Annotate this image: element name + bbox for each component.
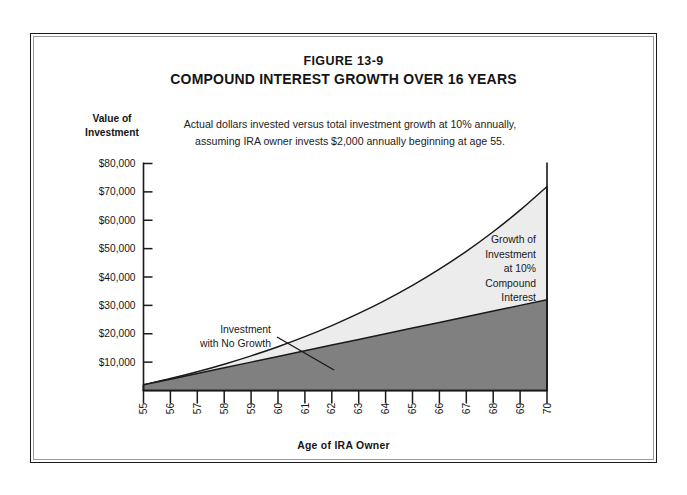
y-tick-label: $40,000 [99,272,136,283]
x-tick-label: 66 [434,403,445,415]
x-tick-label: 69 [515,403,526,415]
y-tick-label: $10,000 [99,357,136,368]
annotation-growth-line: Investment [485,249,536,260]
x-tick-label: 57 [192,403,203,415]
annotation-no-growth-line: Investment [220,324,271,335]
x-tick-label: 59 [246,403,257,415]
x-tick-label: 65 [407,403,418,415]
y-tick-label: $30,000 [99,300,136,311]
x-tick-label: 67 [461,403,472,415]
x-tick-label: 68 [488,403,499,415]
chart-area: $80,000$70,000$60,000$50,000$40,000$30,0… [0,0,687,495]
annotation-growth-line: Compound [485,278,536,289]
y-tick-label: $80,000 [99,158,136,169]
annotation-growth-line: Growth of [491,234,536,245]
x-tick-label: 61 [300,403,311,415]
x-tick-label: 58 [219,403,230,415]
x-tick-label: 62 [326,403,337,415]
y-tick-label: $20,000 [99,328,136,339]
annotation-growth-line: Interest [501,292,536,303]
x-tick-label: 60 [273,403,284,415]
annotation-no-growth-line: with No Growth [199,338,271,349]
x-tick-label: 56 [165,403,176,415]
x-tick-label: 64 [380,403,391,415]
x-tick-label: 63 [353,403,364,415]
figure-page: FIGURE 13-9 COMPOUND INTEREST GROWTH OVE… [0,0,687,495]
annotation-growth-line: at 10% [504,263,536,274]
y-tick-label: $60,000 [99,215,136,226]
y-tick-label: $50,000 [99,243,136,254]
x-axis-ticks: 55565758596061626364656667686970 [138,391,552,415]
y-tick-label: $70,000 [99,186,136,197]
x-tick-label: 70 [542,403,553,415]
x-tick-label: 55 [138,403,149,415]
y-axis-ticks: $80,000$70,000$60,000$50,000$40,000$30,0… [99,158,153,368]
